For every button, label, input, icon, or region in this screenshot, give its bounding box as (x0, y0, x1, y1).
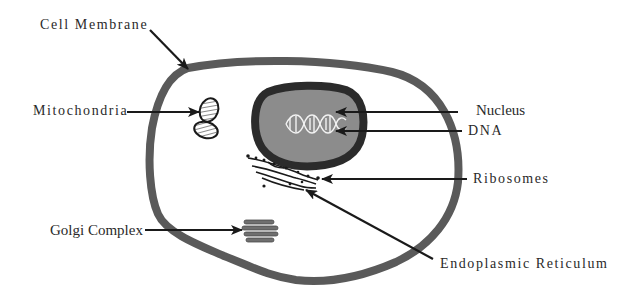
nucleus-label: Nucleus (476, 103, 525, 118)
cell-diagram-graphic (0, 0, 626, 298)
cell-membrane-arrow (150, 30, 188, 69)
nucleus-shape (255, 86, 363, 167)
ribosomes-label: Ribosomes (473, 172, 550, 186)
cell-diagram: Cell Membrane Mitochondria Nucleus DNA R… (0, 0, 626, 298)
mitochondria-label: Mitochondria (33, 104, 128, 118)
dna-label: DNA (468, 124, 503, 138)
golgi-complex-shape (242, 220, 278, 242)
endoplasmic-reticulum-arrow (306, 190, 433, 259)
golgi-complex-label: Golgi Complex (50, 223, 143, 238)
cell-membrane-label: Cell Membrane (40, 18, 148, 32)
endoplasmic-reticulum-label: Endoplasmic Reticulum (440, 257, 609, 271)
mitochondria-shape (192, 96, 221, 141)
